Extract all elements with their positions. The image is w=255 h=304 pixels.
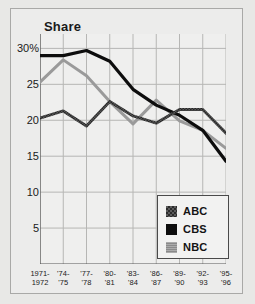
y-tick-label: 5 — [33, 222, 39, 234]
x-tick-label: '95-'96 — [220, 269, 232, 287]
legend-item-abc[interactable]: ABC — [166, 202, 228, 220]
chart-title: Share — [44, 19, 81, 34]
chart-figure: Share 51015202530% 1971-1972'74-'75'77-'… — [10, 8, 243, 294]
abc-swatch-icon — [166, 206, 177, 217]
legend-item-nbc[interactable]: NBC — [166, 238, 228, 256]
x-tick-label: '80-'81 — [104, 269, 116, 287]
x-tick-label: '77-'78 — [80, 269, 92, 287]
x-tick-label: 1971-1972 — [30, 269, 49, 287]
legend-label-nbc: NBC — [183, 241, 207, 253]
x-tick-label: '92-'93 — [197, 269, 209, 287]
x-tick-label: '83-'84 — [127, 269, 139, 287]
x-tick-label: '74-'75 — [57, 269, 69, 287]
y-tick-label: 25 — [27, 78, 39, 90]
y-tick-label: 20 — [27, 114, 39, 126]
y-tick-label: 10 — [27, 186, 39, 198]
cbs-swatch-icon — [166, 224, 177, 235]
x-axis-tick-labels: 1971-1972'74-'75'77-'78'80-'81'83-'84'86… — [11, 265, 244, 295]
y-tick-label: 30% — [17, 42, 39, 54]
nbc-swatch-icon — [166, 242, 177, 253]
legend-label-cbs: CBS — [183, 223, 207, 235]
x-tick-label: '86-'87 — [150, 269, 162, 287]
chart-legend: ABC CBS NBC — [157, 195, 229, 259]
legend-item-cbs[interactable]: CBS — [166, 220, 228, 238]
y-tick-label: 15 — [27, 150, 39, 162]
x-tick-label: '89-'90 — [173, 269, 185, 287]
y-axis-tick-labels: 51015202530% — [11, 9, 39, 295]
legend-label-abc: ABC — [183, 205, 207, 217]
